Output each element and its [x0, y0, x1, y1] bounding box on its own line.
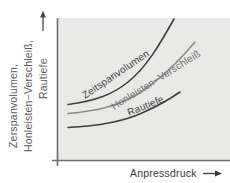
- figure-container: Zerspanvolumen, Honleisten−Verschleiß, R…: [0, 0, 230, 183]
- y-axis-label-line3: Rautiefe: [37, 58, 49, 99]
- x-axis-right-arrow-icon: [203, 171, 222, 177]
- y-axis-label-line2: Honleisten−Verschleiß,: [22, 40, 34, 152]
- y-axis-up-arrow-icon: [40, 11, 46, 32]
- chart-svg: Zerspanvolumen, Honleisten−Verschleiß, R…: [0, 0, 230, 183]
- y-axis-label-line1: Zerspanvolumen,: [7, 64, 19, 148]
- x-axis-label: Anpressdruck: [130, 167, 197, 179]
